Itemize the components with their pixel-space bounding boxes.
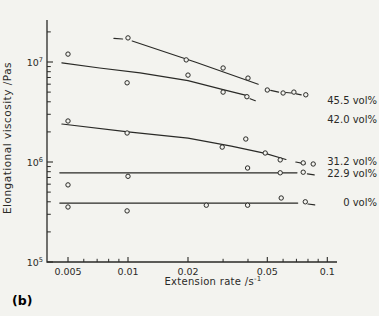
data-point [125,81,129,85]
trend-line [62,124,286,160]
data-point [221,90,225,94]
series-22-9-vol: 22.9 vol% [60,166,377,187]
x-tick-label: 0.01 [117,266,138,277]
data-point [186,73,190,77]
data-point [244,137,248,141]
data-point [265,88,269,92]
trend-line [271,90,279,92]
trend-line [308,204,315,205]
y-axis-title: Elongational viscosity /Pas [1,62,13,214]
data-point [279,196,283,200]
data-point [66,205,70,209]
data-point [126,36,130,40]
data-point [126,174,130,178]
data-point [263,151,267,155]
data-point [66,183,70,187]
data-point [220,145,224,149]
data-point [301,161,305,165]
trend-line [286,93,291,94]
viscosity-chart: (b) 0.0050.010.020.050.1105106107Extensi… [0,0,379,316]
data-point [278,171,282,175]
y-axis-ticks: 105106107 [27,32,53,268]
panel-label: (b) [12,293,32,308]
y-tick-label: 107 [27,56,43,68]
trend-line [296,94,301,95]
data-point [311,162,315,166]
data-point [303,200,307,204]
y-tick-label: 106 [27,156,43,168]
series-0-vol: 0 vol% [60,196,377,213]
data-point [184,58,188,62]
trend-line [132,41,258,84]
series-label: 45.5 vol% [327,95,377,106]
trend-line [62,63,247,96]
data-point [246,76,250,80]
x-tick-label: 0.1 [320,266,335,277]
data-point [125,131,129,135]
figure-panel: (b) 0.0050.010.020.050.1105106107Extensi… [0,0,379,316]
data-point [221,66,225,70]
data-point [304,93,308,97]
data-point [245,95,249,99]
trend-line [250,99,255,101]
data-point [245,166,249,170]
data-point [204,203,208,207]
series-label: 31.2 vol% [327,156,377,167]
data-point [301,170,305,174]
data-point [278,158,282,162]
data-point [292,90,296,94]
series-31-2-vol: 31.2 vol% [62,119,377,167]
trend-line [307,174,314,175]
y-tick-label: 105 [27,256,43,268]
data-point [66,52,70,56]
trend-line [114,38,123,39]
x-tick-label: 0.005 [54,266,81,277]
data-point [245,203,249,207]
series-label: 0 vol% [343,197,377,208]
series-42-0-vol: 42.0 vol% [62,52,377,125]
data-point [125,209,129,213]
series-label: 42.0 vol% [327,114,377,125]
x-axis-title: Extension rate /s-1 [164,275,261,287]
data-point [281,91,285,95]
data-point [66,119,70,123]
x-axis-ticks: 0.0050.010.020.050.1 [54,257,334,277]
series-label: 22.9 vol% [327,168,377,179]
axes [47,20,337,262]
